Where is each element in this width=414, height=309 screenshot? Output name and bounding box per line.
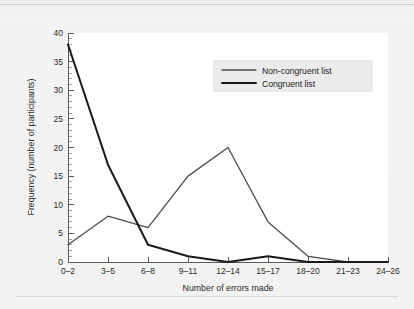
- x-tick-label: 0–2: [61, 266, 75, 276]
- figure-root: 0510152025303540 0–23–56–89–1112–1415–17…: [0, 0, 414, 309]
- y-tick-label: 20: [54, 143, 64, 153]
- y-tick-label: 5: [58, 228, 63, 238]
- y-tick-label: 15: [54, 171, 64, 181]
- x-tick-label: 6–8: [141, 266, 155, 276]
- y-tick-label: 25: [54, 114, 64, 124]
- x-tick-label: 3–5: [101, 266, 115, 276]
- x-tick-label: 12–14: [216, 266, 240, 276]
- y-tick-label: 10: [54, 200, 64, 210]
- legend-label-congruent-list: Congruent list: [262, 79, 316, 89]
- y-tick-label: 30: [54, 85, 64, 95]
- x-tick-label: 15–17: [256, 266, 280, 276]
- x-tick-label: 9–11: [179, 266, 198, 276]
- x-axis-tick-labels: 0–23–56–89–1112–1415–1718–2021–2324–26: [61, 266, 400, 276]
- y-axis-title: Frequency (number of participants): [26, 78, 36, 215]
- y-tick-label: 35: [54, 57, 64, 67]
- x-tick-label: 24–26: [376, 266, 400, 276]
- y-tick-label: 40: [54, 28, 64, 38]
- x-tick-label: 21–23: [336, 266, 360, 276]
- x-tick-label: 18–20: [296, 266, 320, 276]
- line-chart: 0510152025303540 0–23–56–89–1112–1415–17…: [0, 0, 414, 309]
- x-axis-title: Number of errors made: [183, 283, 274, 293]
- y-axis-tick-labels: 0510152025303540: [54, 28, 64, 267]
- legend-label-non-congruent-list: Non-congruent list: [262, 66, 332, 76]
